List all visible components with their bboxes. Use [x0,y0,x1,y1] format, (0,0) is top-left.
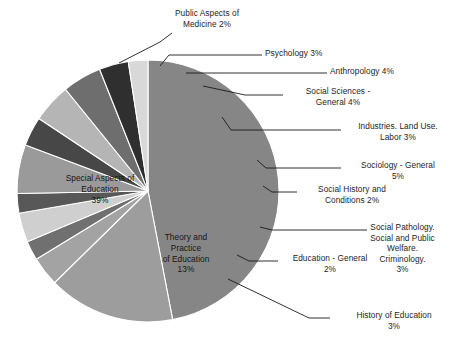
slice-label-psychology: Psychology 3% [265,48,375,59]
slice-label-special-aspects-of-education: Special Aspects of Education 39% [42,173,158,205]
slice-label-history-of-education: History of Education 3% [330,310,458,331]
slice-label-theory-and-practice-of-education: Theory and Practice of Education 13% [136,232,236,275]
pie-slice [148,60,279,320]
leader-line-history-of-education [228,279,330,318]
slice-label-education-general: Education - General 2% [275,253,385,274]
leader-line-public-aspects-of-medicine [119,33,172,63]
slice-label-industries-land-use-labor: Industries. Land Use. Labor 3% [338,121,458,142]
slice-label-sociology-general: Sociology - General 5% [338,160,458,181]
pie-chart-figure: Public Aspects of Medicine 2%Psychology … [0,0,462,346]
slice-label-anthropology: Anthropology 4% [330,66,454,77]
slice-label-social-sciences-general: Social Sciences - General 4% [276,86,400,107]
slice-label-social-history-and-conditions: Social History and Conditions 2% [294,184,410,205]
slice-label-public-aspects-of-medicine: Public Aspects of Medicine 2% [144,8,270,29]
